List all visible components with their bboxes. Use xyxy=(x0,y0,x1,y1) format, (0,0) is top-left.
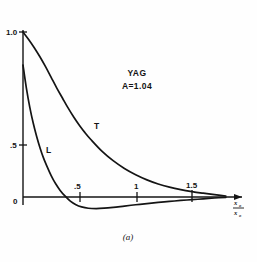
figure-caption: (a) xyxy=(123,232,134,242)
x-tick-label-1-5: 1.5 xyxy=(186,181,198,190)
curve-label-t: T xyxy=(94,121,100,131)
x-tick-label-0-5: .5 xyxy=(74,182,81,191)
material-label: YAG xyxy=(128,68,147,78)
plot-svg: 1.0 .5 0 .5 1 1.5 T L YAG A=1.04 x o x o… xyxy=(0,0,257,262)
y-tick-label-1: 1.0 xyxy=(6,28,18,37)
parameter-label: A=1.04 xyxy=(122,81,152,91)
x-axis-label-denominator: x xyxy=(233,209,238,216)
curve-label-l: L xyxy=(46,145,51,155)
x-axis-label: x o x o xyxy=(233,199,244,218)
curve-transverse xyxy=(23,32,226,196)
x-axis-label-numerator: x xyxy=(233,199,238,206)
y-tick-label-0-5: .5 xyxy=(10,141,17,150)
y-tick-label-0: 0 xyxy=(13,197,18,206)
figure-container: 1.0 .5 0 .5 1 1.5 T L YAG A=1.04 x o x o… xyxy=(0,0,257,262)
x-tick-label-1: 1 xyxy=(134,182,139,191)
x-axis-label-numerator-sub: o xyxy=(239,203,242,208)
x-axis-label-denominator-sub: o xyxy=(239,213,242,218)
